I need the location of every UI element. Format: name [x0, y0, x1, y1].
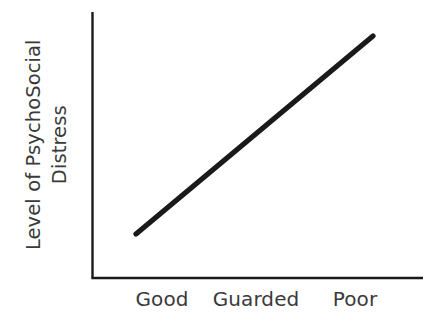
x-tick-label-guarded: Guarded: [213, 288, 300, 310]
chart-container: Level of PsychoSocial Distress Good Guar…: [0, 0, 443, 333]
x-tick-label-poor: Poor: [333, 288, 377, 310]
x-axis-tick-labels: Good Guarded Poor: [92, 288, 423, 328]
plot-area: [0, 0, 443, 333]
x-tick-label-good: Good: [135, 288, 188, 310]
trend-line: [136, 36, 373, 234]
